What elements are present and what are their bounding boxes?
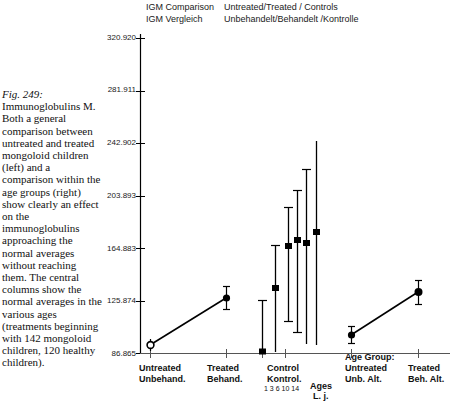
- x-label-age-group-treated-de: Beh. Alt.: [408, 374, 444, 385]
- marker-filled-circle: [415, 288, 423, 296]
- x-label-control-de: Kontrol.: [267, 374, 302, 385]
- marker-filled-circle: [223, 294, 230, 301]
- x-label-age-group: Age Group:: [345, 352, 395, 363]
- right-treated-point: [415, 280, 423, 305]
- control-point-age-1: [258, 300, 267, 355]
- x-label-age-group-untreated-de: Unb. Alt.: [345, 374, 395, 385]
- x-label-control-en: Control: [267, 363, 302, 374]
- x-label-treated-en: Treated: [207, 363, 243, 374]
- x-label-control: Control Kontrol.: [267, 363, 302, 385]
- age-tick-labels: 1 3 6 10 14: [264, 385, 299, 392]
- marker-filled-square: [272, 285, 279, 291]
- chart-plot-area: [0, 0, 452, 406]
- x-label-age-group-treated: Treated Beh. Alt.: [408, 363, 444, 385]
- control-point-age-14: [302, 169, 311, 344]
- marker-filled-square: [285, 243, 292, 249]
- x-label-untreated-en: Untreated: [139, 363, 186, 374]
- right-series-connector: [351, 292, 418, 335]
- control-point-age-6: [284, 207, 293, 322]
- control-point-age-3: [271, 245, 280, 352]
- marker-filled-square: [294, 237, 301, 243]
- left-series-connector: [150, 298, 226, 345]
- x-label-treated-de: Behand.: [207, 374, 243, 385]
- x-label-untreated-de: Unbehand.: [139, 374, 186, 385]
- x-label-age-group-untreated: Age Group: Untreated Unb. Alt.: [345, 352, 395, 385]
- left-untreated-point: [147, 339, 154, 351]
- marker-filled-square: [303, 240, 310, 246]
- age-axis-name-de: L. j.: [313, 391, 329, 401]
- age-axis-name-en: Ages: [310, 381, 332, 391]
- marker-open-circle: [147, 342, 154, 349]
- x-label-treated: Treated Behand.: [207, 363, 243, 385]
- control-series: [258, 141, 320, 355]
- marker-filled-square: [259, 349, 266, 355]
- marker-filled-circle: [348, 331, 355, 338]
- left-treated-point: [223, 286, 230, 310]
- control-point-age-oldest: [313, 141, 320, 345]
- right-untreated-point: [348, 326, 355, 344]
- marker-filled-square: [313, 229, 320, 235]
- chart-svg: [0, 0, 452, 406]
- x-label-age-group-treated-en: Treated: [408, 363, 444, 374]
- x-label-age-group-untreated-en: Untreated: [345, 363, 395, 374]
- x-label-untreated: Untreated Unbehand.: [139, 363, 186, 385]
- control-point-age-10: [293, 190, 302, 333]
